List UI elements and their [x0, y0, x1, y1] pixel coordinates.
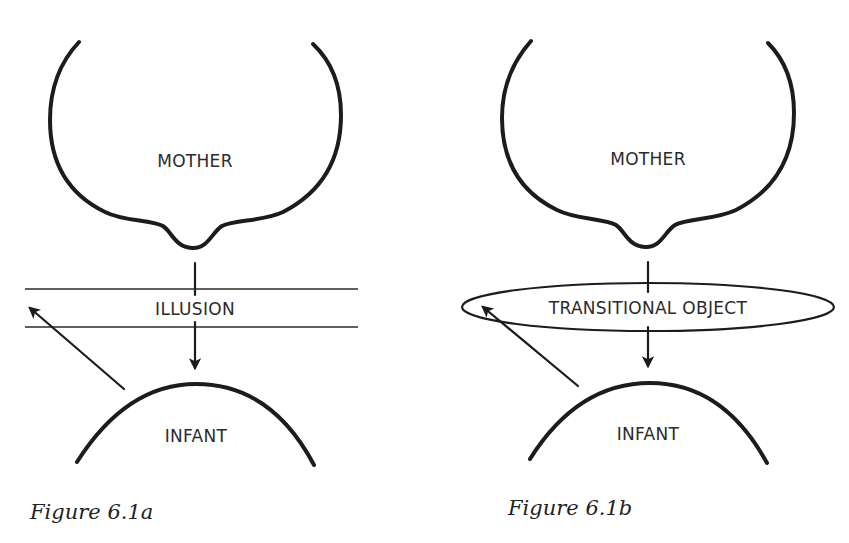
mother-label: MOTHER	[610, 149, 686, 169]
mother-shape	[502, 41, 794, 247]
infant-to-band-arrow	[30, 308, 124, 389]
mother-label: MOTHER	[157, 151, 233, 171]
infant-label: INFANT	[617, 424, 680, 444]
infant-label: INFANT	[165, 426, 228, 446]
mother-shape	[50, 42, 341, 248]
figure-6-1b: MOTHER TRANSITIONAL OBJECT INFANT Figure…	[462, 41, 834, 520]
transitional-object-label: TRANSITIONAL OBJECT	[548, 298, 748, 318]
winnicott-diagram: MOTHER ILLUSION INFANT Figure 6.1a MOTHE…	[0, 0, 849, 543]
figure-caption: Figure 6.1a	[29, 500, 153, 524]
figure-caption: Figure 6.1b	[507, 496, 632, 520]
figure-6-1a: MOTHER ILLUSION INFANT Figure 6.1a	[25, 42, 358, 524]
infant-shape	[530, 383, 767, 463]
infant-shape	[77, 384, 314, 465]
illusion-label: ILLUSION	[155, 299, 235, 319]
infant-to-ellipse-arrow	[483, 307, 578, 386]
